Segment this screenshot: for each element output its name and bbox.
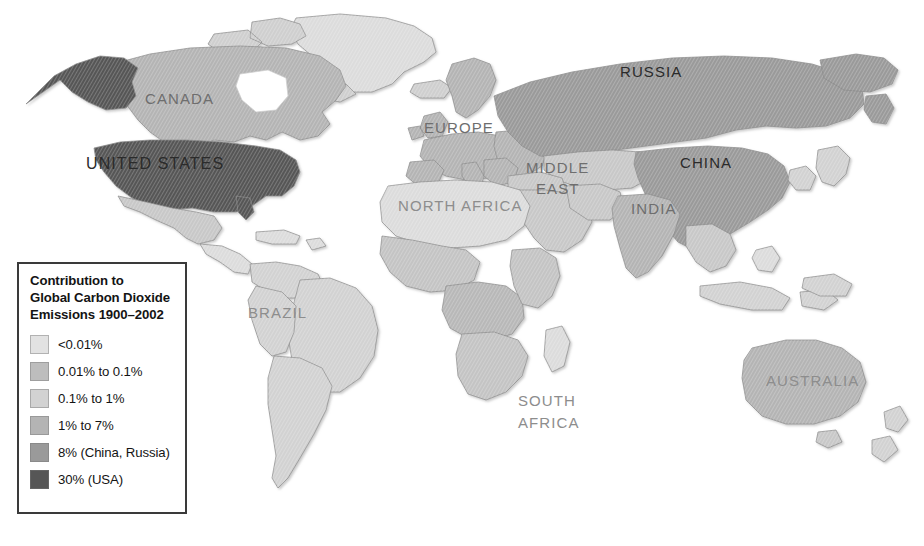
map-label-russia: RUSSIA: [620, 63, 682, 80]
legend-item: 30% (USA): [30, 466, 176, 493]
legend-swatch: [30, 470, 49, 489]
map-label-united-states: UNITED STATES: [86, 155, 224, 172]
map-label-australia: AUSTRALIA: [766, 372, 859, 389]
map-label-africa: AFRICA: [518, 414, 580, 431]
legend-item: 0.01% to 0.1%: [30, 358, 176, 385]
legend-swatch: [30, 443, 49, 462]
legend-item-label: 30% (USA): [58, 472, 123, 487]
map-label-india: INDIA: [631, 200, 677, 217]
legend-item-label: <0.01%: [58, 337, 103, 352]
map-figure: CANADA UNITED STATES BRAZIL EUROPE RUSSI…: [0, 0, 924, 546]
map-label-canada: CANADA: [145, 90, 214, 107]
map-label-south: SOUTH: [518, 392, 576, 409]
map-label-east: EAST: [536, 180, 580, 197]
map-label-north-africa: NORTH AFRICA: [398, 197, 523, 214]
map-label-europe: EUROPE: [424, 119, 494, 136]
map-label-middle: MIDDLE: [526, 159, 589, 176]
map-label-china: CHINA: [680, 154, 732, 171]
legend-swatch: [30, 389, 49, 408]
legend-swatch: [30, 335, 49, 354]
legend-title-line-3: Emissions 1900–2002: [30, 307, 176, 324]
legend-item-label: 0.1% to 1%: [58, 391, 124, 406]
legend-item-label: 8% (China, Russia): [58, 445, 170, 460]
map-label-brazil: BRAZIL: [248, 304, 307, 321]
map-legend: Contribution to Global Carbon Dioxide Em…: [17, 262, 187, 514]
legend-title-line-2: Global Carbon Dioxide: [30, 290, 176, 307]
legend-item-label: 1% to 7%: [58, 418, 114, 433]
legend-item-label: 0.01% to 0.1%: [58, 364, 142, 379]
legend-item: <0.01%: [30, 331, 176, 358]
legend-item: 1% to 7%: [30, 412, 176, 439]
legend-item: 8% (China, Russia): [30, 439, 176, 466]
legend-title: Contribution to Global Carbon Dioxide Em…: [30, 273, 176, 324]
legend-item: 0.1% to 1%: [30, 385, 176, 412]
legend-title-line-1: Contribution to: [30, 273, 176, 290]
legend-swatch: [30, 362, 49, 381]
legend-swatch: [30, 416, 49, 435]
